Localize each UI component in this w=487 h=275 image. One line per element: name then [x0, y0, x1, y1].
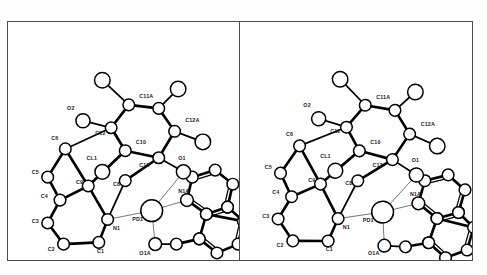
atom-label-c11a: C11A	[139, 93, 153, 99]
bond-inner-line	[225, 188, 228, 201]
atom-sphere	[58, 238, 70, 250]
atom-sphere	[193, 233, 205, 245]
atom-sphere	[386, 154, 398, 166]
atom-label-c1: C1	[97, 248, 104, 254]
atom-sphere	[311, 111, 326, 126]
atom-sphere	[371, 201, 394, 224]
atom-sphere	[423, 237, 435, 249]
atom-label-c13: C13	[373, 162, 383, 168]
atom-label-c12: C12	[95, 130, 105, 136]
atom-label-c8: C8	[345, 180, 352, 186]
atom-label-n1a: N1A	[178, 188, 189, 194]
atom-sphere	[119, 145, 131, 157]
molecule-diagram-right: C11AO2C12C12AC10C6CL1C13O1C5C9C8C4PD1C3N…	[240, 22, 472, 260]
atom-sphere	[209, 164, 221, 176]
molecule-diagram-left: C11AO2C12C12AC10C6CL1C13O1C5C9C8C4PD1C3N…	[8, 22, 239, 260]
atom-sphere	[123, 99, 135, 111]
atom-sphere	[332, 71, 348, 87]
atom-label-c12: C12	[330, 128, 340, 134]
stereo-pair-frame: C11AO2C12C12AC10C6CL1C13O1C5C9C8C4PD1C3N…	[7, 21, 473, 261]
stereo-panel-right: C11AO2C12C12AC10C6CL1C13O1C5C9C8C4PD1C3N…	[240, 22, 472, 260]
atom-sphere	[439, 252, 451, 260]
atom-sphere	[352, 175, 364, 187]
atom-sphere	[459, 184, 471, 196]
atom-sphere	[201, 208, 213, 220]
atom-label-c2: C2	[277, 242, 284, 248]
atom-sphere	[452, 206, 464, 218]
atom-sphere	[340, 121, 352, 133]
atom-sphere	[359, 99, 371, 111]
atom-sphere	[232, 238, 239, 250]
atom-sphere	[442, 169, 454, 181]
atom-sphere	[285, 191, 297, 203]
atom-sphere	[42, 217, 54, 229]
atom-label-c2: C2	[48, 246, 55, 252]
atom-sphere	[328, 163, 344, 179]
atom-sphere	[119, 175, 131, 187]
stereo-panel-left: C11AO2C12C12AC10C6CL1C13O1C5C9C8C4PD1C3N…	[8, 22, 240, 260]
atom-label-c5: C5	[265, 164, 272, 170]
atom-sphere	[176, 165, 190, 179]
atom-label-c4: C4	[41, 193, 48, 199]
atom-sphere	[314, 178, 326, 190]
atom-label-cl1: CL1	[320, 153, 331, 159]
atom-sphere	[141, 200, 163, 222]
atom-sphere	[353, 145, 365, 157]
atom-label-c8: C8	[113, 181, 120, 187]
atom-sphere	[378, 239, 391, 252]
atom-sphere	[181, 194, 194, 207]
atom-sphere	[149, 238, 162, 251]
atom-sphere	[60, 143, 72, 155]
atom-label-o1a: O1A	[368, 250, 379, 256]
atom-label-n1: N1	[343, 224, 350, 230]
atom-sphere	[54, 194, 66, 206]
atom-sphere	[322, 235, 334, 247]
atom-sphere	[195, 134, 211, 150]
atom-sphere	[389, 104, 401, 116]
atom-sphere	[274, 167, 286, 179]
atom-sphere	[404, 128, 416, 140]
atom-sphere	[412, 197, 425, 210]
atom-label-o1: O1	[178, 155, 185, 161]
atom-sphere	[332, 212, 344, 224]
atom-sphere	[82, 180, 94, 192]
atom-label-pd1: PD1	[363, 217, 374, 223]
atom-label-c12a: C12A	[185, 117, 199, 123]
atom-label-c10: C10	[136, 139, 146, 145]
atom-sphere	[76, 114, 90, 128]
atom-sphere	[211, 247, 223, 259]
atom-label-n1: N1	[113, 225, 120, 231]
atom-label-c9: C9	[76, 179, 83, 185]
figure-root: C11AO2C12C12AC10C6CL1C13O1C5C9C8C4PD1C3N…	[0, 0, 487, 275]
atom-sphere	[170, 81, 186, 97]
atom-sphere	[272, 213, 284, 225]
atom-label-o2: O2	[67, 105, 74, 111]
atom-label-c3: C3	[262, 213, 269, 219]
atom-sphere	[222, 201, 234, 213]
atom-label-c3: C3	[32, 218, 39, 224]
atom-label-c4: C4	[272, 189, 279, 195]
atom-label-c11a: C11A	[376, 94, 390, 100]
atom-label-n1a: N1A	[410, 191, 421, 197]
atom-label-cl1: CL1	[86, 155, 97, 161]
atom-label-c1: C1	[326, 246, 333, 252]
atom-sphere	[431, 212, 443, 224]
atom-label-o1: O1	[412, 157, 419, 163]
bond-inner-line	[236, 226, 239, 239]
atom-label-c13: C13	[139, 162, 149, 168]
atom-sphere	[93, 237, 105, 249]
atom-label-c9: C9	[308, 177, 315, 183]
atom-sphere	[95, 164, 110, 179]
atom-sphere	[105, 122, 117, 134]
atom-sphere	[399, 241, 411, 253]
atom-sphere	[42, 171, 54, 183]
atom-sphere	[409, 168, 424, 183]
atom-label-o1a: O1A	[139, 250, 150, 256]
atom-sphere	[293, 140, 305, 152]
atom-sphere	[407, 84, 423, 100]
atom-sphere	[153, 152, 165, 164]
atom-label-c5: C5	[32, 169, 39, 175]
atom-sphere	[227, 178, 239, 190]
atom-sphere	[153, 103, 165, 115]
atom-sphere	[169, 125, 181, 137]
